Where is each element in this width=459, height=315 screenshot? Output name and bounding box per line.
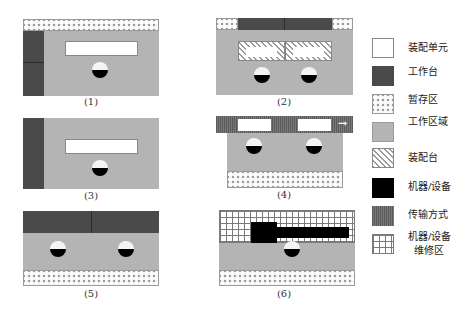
workbench [23,118,44,189]
legend-assembly-station-swatch [372,148,394,168]
workbench-divider [23,62,44,63]
legend-storage-label: 暂存区 [408,94,438,106]
worker-icon [92,62,108,78]
worker-icon-left [246,138,262,154]
panel-2-caption: (2) [254,96,314,107]
legend-assembly-station-label: 装配台 [408,152,438,164]
worker-icon-left [50,241,66,257]
legend-assembly-unit-swatch [372,38,394,58]
legend-maintenance-label-2: 维修区 [414,245,444,257]
legend-machine-swatch [372,178,394,198]
panel-5 [23,211,159,286]
storage-area-right [332,18,353,30]
assembly-unit-left [238,119,271,131]
workbench-divider [91,211,92,233]
storage-area [23,19,159,31]
legend-transport-swatch [372,206,394,226]
legend-work-area-swatch [372,122,394,142]
machine-arm [277,227,349,238]
legend-workbench-swatch [372,66,394,86]
legend-machine-label: 机器/设备 [408,181,451,193]
work-area [227,133,343,171]
panel-3-caption: (3) [61,190,121,201]
storage-area [23,270,159,286]
work-area [23,233,159,270]
transport-direction-arrow-icon: → [338,119,347,129]
panel-6-caption: (6) [254,288,314,299]
workbench [23,31,44,96]
legend-transport-label: 传输方式 [408,209,448,221]
legend-maintenance-label-1: 机器/设备 [408,231,451,243]
legend-workbench-label: 工作台 [408,66,438,78]
panel-1-caption: (1) [61,96,121,107]
panel-3 [23,118,159,189]
legend: 装配单元 工作台 暂存区 工作区域 装配台 机器/设备 传输方式 机器/设备 维… [372,38,457,268]
transport-line [216,116,353,133]
assembly-unit-right [293,47,324,57]
machine-main [251,222,277,244]
legend-maintenance-swatch [372,234,394,254]
assembly-unit [65,41,138,56]
storage-area [219,270,355,286]
legend-work-area-label: 工作区域 [408,116,448,128]
storage-area-left [216,18,238,30]
worker-icon-left [254,67,270,83]
legend-assembly-unit-label: 装配单元 [408,42,448,54]
panel-4: → [216,116,353,188]
assembly-unit-right [298,119,331,131]
panel-4-caption: (4) [254,189,314,200]
panel-1 [23,19,159,96]
workbench [238,18,332,30]
worker-icon [284,241,300,257]
assembly-unit [65,139,138,154]
workbench-divider [284,18,285,30]
storage-area [227,171,343,188]
worker-icon-right [118,241,134,257]
legend-storage-swatch [372,94,394,114]
panel-6 [219,210,355,286]
panel-2 [216,18,353,95]
panel-5-caption: (5) [61,288,121,299]
worker-icon-right [301,67,317,83]
assembly-unit-left [246,47,277,57]
worker-icon [92,160,108,176]
worker-icon-right [306,138,322,154]
